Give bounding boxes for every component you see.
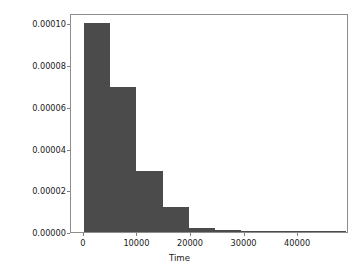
histogram-bar bbox=[84, 23, 110, 232]
x-tick-label: 10000 bbox=[123, 239, 149, 247]
y-tick-mark bbox=[67, 108, 70, 109]
histogram-bar bbox=[215, 230, 241, 232]
histogram-bar bbox=[268, 231, 294, 232]
histogram-bar bbox=[136, 171, 162, 232]
x-tick-label: 20000 bbox=[177, 239, 203, 247]
x-tick-label: 0 bbox=[80, 239, 85, 247]
histogram-bar bbox=[110, 87, 136, 232]
y-tick-mark bbox=[67, 24, 70, 25]
y-tick-label: 0.00006 bbox=[32, 104, 66, 112]
histogram-bar bbox=[294, 231, 320, 232]
histogram-bar bbox=[241, 231, 267, 232]
x-axis-label: Time bbox=[0, 254, 359, 263]
y-tick-label: 0.00002 bbox=[32, 187, 66, 195]
y-tick-mark bbox=[67, 191, 70, 192]
y-tick-mark bbox=[67, 66, 70, 67]
x-tick-label: 30000 bbox=[231, 239, 257, 247]
histogram-bar bbox=[320, 231, 346, 232]
y-tick-label: 0.00004 bbox=[32, 146, 66, 154]
x-tick-mark bbox=[297, 233, 298, 236]
x-tick-mark bbox=[190, 233, 191, 236]
y-tick-label: 0.00000 bbox=[32, 229, 66, 237]
y-tick-mark bbox=[67, 233, 70, 234]
histogram-bar bbox=[189, 228, 215, 232]
x-tick-mark bbox=[136, 233, 137, 236]
y-tick-label: 0.00010 bbox=[32, 20, 66, 28]
x-tick-label: 40000 bbox=[284, 239, 310, 247]
bars-container bbox=[71, 15, 347, 232]
histogram-bar bbox=[163, 207, 189, 232]
x-tick-mark bbox=[83, 233, 84, 236]
y-tick-label: 0.00008 bbox=[32, 62, 66, 70]
plot-axes bbox=[70, 14, 348, 233]
histogram-figure: 0.000000.000020.000040.000060.000080.000… bbox=[0, 0, 359, 272]
x-tick-mark bbox=[244, 233, 245, 236]
y-tick-mark bbox=[67, 150, 70, 151]
